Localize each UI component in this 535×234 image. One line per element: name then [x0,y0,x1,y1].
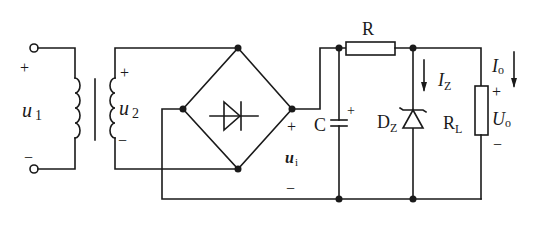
ui-plus: + [287,118,296,135]
ui-label: ui [285,149,298,168]
C-label: C [314,115,326,135]
resistor-R [346,42,395,55]
circuit-diagram: + u1 − + u2 − + ui − C + R DZ IZ RL Io +… [0,0,535,234]
R-label: R [362,19,374,39]
IZ-label: IZ [437,70,451,93]
input-terminal-top [30,44,38,52]
u1-label: u1 [22,99,42,123]
Uo-plus: + [492,83,501,100]
zener-diode-DZ [400,48,426,199]
u1-minus: − [24,149,33,166]
input-terminal-bottom [30,165,38,173]
u1-plus: + [20,59,29,76]
ui-minus: − [286,180,295,197]
Io-label: Io [491,56,504,77]
wire-positive [292,48,346,109]
RL-label: RL [443,113,462,136]
DZ-label: DZ [377,112,397,135]
capacitor-C [331,48,347,199]
u2-label: u2 [119,97,139,121]
load-resistor-RL [475,86,488,135]
C-plus: + [347,103,355,118]
u2-plus: + [120,64,129,81]
u2-minus: − [118,132,127,149]
Uo-minus: − [493,136,502,153]
transformer-primary [38,48,80,169]
Uo-label: Uo [492,109,511,130]
bridge-rectifier [183,48,292,169]
